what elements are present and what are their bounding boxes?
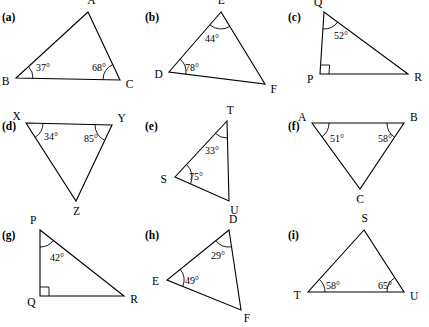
- vertex-label: F: [244, 313, 250, 325]
- triangle-figure-h: (h)DEF29°49°: [143, 218, 286, 327]
- part-label: (i): [288, 230, 299, 242]
- vertex-label: U: [410, 291, 418, 303]
- part-label: (b): [145, 12, 159, 24]
- vertex-label: E: [152, 276, 159, 288]
- triangle-figure-e: (e)TSU33°75°: [143, 109, 286, 218]
- triangle-figure-f: (f)ABC51°58°: [286, 109, 429, 218]
- angle-arc: [319, 279, 325, 292]
- part-label: (a): [2, 12, 15, 24]
- angle-arc: [215, 133, 227, 138]
- angle-arc: [35, 123, 43, 137]
- angle-measure-label: 58°: [326, 280, 340, 292]
- angle-measure-label: 29°: [211, 250, 225, 262]
- triangle-figure-b: (b)EDF44°78°: [143, 0, 286, 109]
- vertex-label: A: [87, 0, 95, 7]
- part-label: (e): [145, 121, 158, 133]
- angle-measure-label: 49°: [185, 275, 199, 287]
- vertex-label: C: [126, 79, 134, 91]
- vertex-label: Q: [314, 0, 322, 8]
- triangle-figure-c: (c)QPR52°: [286, 0, 429, 109]
- triangle-outline: [175, 121, 229, 201]
- triangle-figure-i: (i)STU58°65°: [286, 218, 429, 327]
- vertex-label: A: [298, 112, 306, 124]
- vertex-label: Q: [27, 297, 35, 309]
- angle-measure-label: 42°: [50, 252, 64, 264]
- vertex-label: D: [229, 214, 237, 226]
- part-label: (c): [288, 12, 301, 24]
- angle-arc: [323, 22, 338, 29]
- vertex-label: R: [130, 294, 138, 306]
- triangle-outline: [320, 12, 408, 74]
- vertex-label: R: [414, 72, 422, 84]
- vertex-label: S: [361, 213, 367, 225]
- vertex-label: P: [307, 74, 313, 86]
- vertex-label: F: [270, 84, 276, 96]
- right-angle-marker: [40, 287, 49, 296]
- angle-measure-label: 75°: [189, 171, 203, 183]
- triangle-figure-a: (a)ABC37°68°: [0, 0, 143, 109]
- part-label: (h): [145, 230, 159, 242]
- angle-measure-label: 58°: [378, 133, 392, 145]
- triangle-outline: [169, 12, 265, 84]
- angle-arc: [40, 241, 53, 247]
- angle-arc: [29, 67, 33, 79]
- angle-arc: [210, 25, 230, 29]
- part-label: (g): [2, 230, 15, 242]
- triangle-outline: [167, 230, 241, 310]
- right-angle-marker: [321, 65, 330, 74]
- angle-measure-label: 65°: [378, 280, 392, 292]
- angle-arc: [216, 241, 232, 247]
- vertex-label: X: [13, 111, 21, 123]
- vertex-label: D: [155, 69, 163, 81]
- angle-measure-label: 37°: [36, 62, 50, 74]
- vertex-label: E: [218, 0, 225, 7]
- vertex-label: S: [160, 174, 166, 186]
- vertex-label: C: [356, 194, 364, 206]
- angle-measure-label: 44°: [205, 33, 219, 45]
- triangle-figure-g: (g)PQR42°: [0, 218, 143, 327]
- vertex-label: B: [410, 112, 418, 124]
- angle-measure-label: 34°: [44, 131, 58, 143]
- vertex-label: T: [294, 290, 301, 302]
- angle-measure-label: 52°: [334, 30, 348, 42]
- angle-arc: [322, 123, 329, 137]
- triangle-worksheet-grid: (a)ABC37°68°(b)EDF44°78°(c)QPR52°(d)XYZ3…: [0, 0, 429, 327]
- angle-measure-label: 68°: [92, 62, 106, 74]
- vertex-label: B: [2, 76, 10, 88]
- vertex-label: Z: [73, 206, 80, 218]
- vertex-label: T: [227, 105, 234, 117]
- angle-measure-label: 51°: [330, 133, 344, 145]
- angle-measure-label: 85°: [84, 133, 98, 145]
- angle-arc: [180, 269, 184, 286]
- angle-measure-label: 78°: [185, 62, 199, 74]
- triangle-figure-d: (d)XYZ34°85°: [0, 109, 143, 218]
- vertex-label: P: [30, 215, 36, 227]
- angle-measure-label: 33°: [205, 145, 219, 157]
- vertex-label: Y: [117, 113, 125, 125]
